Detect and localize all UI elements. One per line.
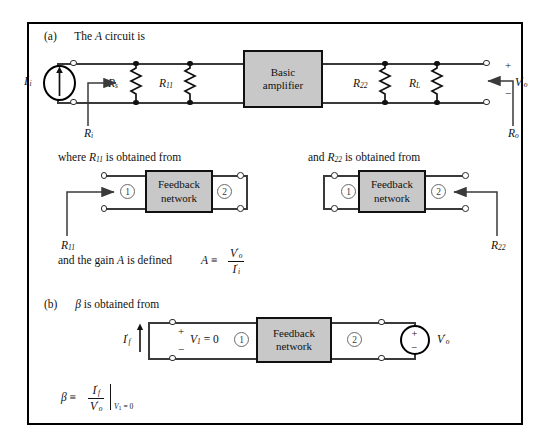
input-terminal-top	[70, 60, 77, 67]
gain-sentence: and the gain A is defined	[58, 255, 172, 267]
fb-right-line-1: Feedback	[371, 178, 413, 191]
port-1-b: 1	[234, 332, 249, 347]
node-dot-r22-top	[382, 61, 387, 66]
node-dot-rs-top	[133, 61, 138, 66]
current-source-symbol	[43, 65, 76, 101]
pointer-label-r22: R22	[491, 240, 506, 252]
fb-left-line-1: Feedback	[158, 178, 200, 191]
resistor-r22-label: R22	[353, 78, 368, 90]
wire-b-right-bottom	[332, 358, 416, 360]
output-terminal-top	[483, 60, 490, 67]
panel-a-text-after: circuit is	[105, 30, 145, 42]
output-minus-sign: −	[505, 88, 511, 99]
panel-a-label: (a)	[44, 30, 57, 42]
beta-numerator: I′f	[88, 384, 104, 397]
wire-b-right-top	[332, 322, 416, 324]
b-terminal-left-bottom	[169, 355, 176, 362]
feedback-network-box-b: Feedback network	[256, 317, 332, 363]
fbright-in-terminal-top	[331, 172, 338, 179]
b-terminal-right-top	[378, 319, 385, 326]
v1-zero-label: V1 = 0	[190, 334, 219, 346]
output-terminal-bottom	[483, 99, 490, 106]
beta-condition: V1 = 0	[114, 403, 133, 411]
b-terminal-right-bottom	[378, 355, 385, 362]
gain-fraction: V′o I′i	[228, 247, 244, 277]
panel-a-text-before: The	[74, 30, 92, 42]
resistor-r11-label: R11	[159, 78, 173, 90]
resistor-rl-label: RL	[409, 78, 420, 90]
wire-fbleft-out-short	[246, 175, 248, 210]
basic-amplifier-box: Basic amplifier	[243, 50, 323, 108]
feedback-current-label: I′f	[123, 334, 131, 346]
feedback-network-box-left: Feedback network	[145, 170, 213, 213]
node-dot-rl-bottom	[434, 100, 439, 105]
beta-fraction: I′f V′o	[88, 384, 104, 414]
gain-numerator: V′o	[228, 247, 244, 260]
panel-a-italic-var: A	[95, 30, 102, 42]
wire-top-right	[322, 63, 489, 65]
fbright-out-terminal-top	[462, 172, 469, 179]
wire-b-left-vertical	[148, 322, 150, 360]
fbleft-terminal-top	[101, 172, 108, 179]
gain-fraction-bar	[228, 261, 244, 262]
output-resistance-label: Ro	[508, 128, 519, 140]
panel-b-heading: (b) β is obtained from	[44, 299, 159, 311]
wire-fbright-in-top	[323, 175, 358, 177]
fbleft-terminal-bottom	[101, 205, 108, 212]
wire-bottom-right	[322, 102, 489, 104]
beta-definition-lhs: β ≡	[61, 392, 76, 404]
wire-fbright-out-top	[426, 175, 466, 177]
voltage-source-plus: +	[412, 329, 418, 340]
wire-fbleft-in-bottom	[104, 208, 145, 210]
panel-b-label: (b)	[44, 298, 57, 310]
amplifier-line-1: Basic	[271, 66, 295, 79]
panel-b-text: is obtained from	[84, 298, 159, 310]
input-current-label: I′i	[24, 76, 32, 88]
caption-r11-obtained: where R11 is obtained from	[58, 152, 181, 164]
gain-denominator: I′i	[228, 263, 244, 276]
wire-fbright-in-bottom	[323, 208, 358, 210]
beta-eval-bar	[110, 384, 111, 410]
figure-root: (a) The A circuit is I′i Basic amplifier…	[0, 0, 549, 445]
node-dot-rs-bottom	[133, 100, 138, 105]
wire-fbleft-in-top	[104, 175, 145, 177]
port-1-left: 1	[120, 184, 135, 199]
wire-fbright-in-short	[323, 175, 325, 210]
pointer-label-r11: R11	[61, 240, 75, 252]
node-dot-r22-bottom	[382, 100, 387, 105]
input-resistance-label: Ri	[84, 128, 93, 140]
wire-fbright-out-bottom	[426, 208, 466, 210]
port-1-right: 1	[341, 184, 356, 199]
feedback-network-box-right: Feedback network	[358, 170, 426, 213]
panel-a-heading: (a) The A circuit is	[44, 31, 145, 43]
wire-b-left-top	[148, 322, 256, 324]
fbright-in-terminal-bottom	[331, 205, 338, 212]
wire-b-left-bottom	[148, 358, 256, 360]
output-plus-sign: +	[505, 60, 511, 71]
node-dot-r11-bottom	[187, 100, 192, 105]
b-terminal-left-top	[169, 319, 176, 326]
beta-fraction-bar	[88, 398, 104, 399]
port-2-left: 2	[217, 184, 232, 199]
port-2-b: 2	[347, 332, 362, 347]
fb-right-line-2: network	[374, 192, 410, 205]
panel-b-beta: β	[75, 298, 81, 310]
resistor-rs-label: Rs	[108, 78, 118, 90]
gain-definition-lhs: A ≡	[201, 255, 217, 267]
fbright-out-terminal-bottom	[462, 205, 469, 212]
node-dot-rl-top	[434, 61, 439, 66]
voltage-source-label: V′o	[437, 334, 449, 346]
b-minus-sign: −	[178, 344, 184, 355]
wire-bottom-left	[57, 102, 243, 104]
caption-r22-obtained: and R22 is obtained from	[308, 152, 420, 164]
fbleft-out-terminal-top	[237, 172, 244, 179]
input-terminal-bottom	[70, 99, 77, 106]
fb-b-line-2: network	[276, 340, 312, 353]
amplifier-line-2: amplifier	[263, 79, 303, 92]
output-voltage-label: V′o	[515, 77, 527, 89]
fb-b-line-1: Feedback	[273, 327, 315, 340]
b-plus-sign: +	[178, 326, 184, 337]
fb-left-line-2: network	[161, 192, 197, 205]
port-2-right: 2	[431, 184, 446, 199]
fbleft-out-terminal-bottom	[237, 205, 244, 212]
